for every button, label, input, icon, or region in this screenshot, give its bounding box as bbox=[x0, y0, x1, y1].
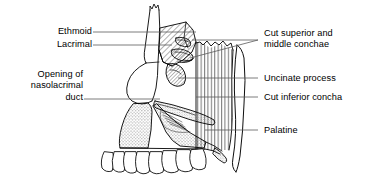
frontal-process-maxilla bbox=[127, 46, 159, 104]
label-palatine: Palatine bbox=[264, 125, 366, 137]
nasal-bone bbox=[144, 4, 160, 63]
label-cut-conchae-line2: middle conchae bbox=[264, 39, 366, 51]
label-lacrimal: Lacrimal bbox=[10, 39, 92, 51]
uncinate-process bbox=[166, 64, 186, 87]
label-ethmoid: Ethmoid bbox=[10, 26, 92, 38]
upper-teeth bbox=[101, 149, 206, 174]
sphenoid-palatine-region bbox=[196, 41, 233, 150]
pterygoid-hamulus bbox=[213, 148, 227, 163]
maxilla bbox=[119, 103, 152, 148]
label-cut-inferior-concha: Cut inferior concha bbox=[264, 92, 368, 104]
label-cut-conchae-line1: Cut superior and bbox=[264, 28, 366, 40]
label-opening-nasolacrimal-line2: nasolacrimal bbox=[2, 80, 83, 92]
label-opening-nasolacrimal-line3: duct bbox=[2, 92, 83, 104]
figure-canvas: Ethmoid Lacrimal Opening of nasolacrimal… bbox=[0, 0, 368, 180]
label-opening-nasolacrimal-line1: Opening of bbox=[2, 69, 83, 81]
posterior-wall-outline bbox=[232, 45, 245, 172]
label-uncinate-process: Uncinate process bbox=[264, 73, 366, 85]
